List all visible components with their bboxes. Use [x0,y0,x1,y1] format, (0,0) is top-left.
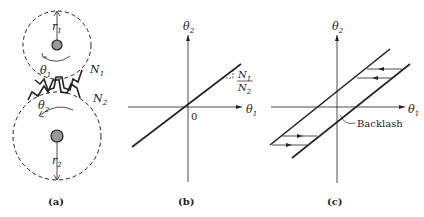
N2-label: N2 [92,92,108,107]
r1-label: r1 [52,20,62,35]
theta1-label: θ1 [40,64,51,79]
gear-backlash-diagram: r1 r2 θ1 θ2 N1 N2 (a) θ2 θ1 0 N1 N2 (b) … [0,0,424,217]
lower-backlash-line [292,64,410,158]
caption-a: (a) [48,196,64,207]
panel-c-plot [270,35,410,183]
c-xaxis-label: θ1 [408,103,419,118]
caption-c: (c) [327,196,343,207]
backlash-leader [340,115,355,124]
N1-label: N1 [89,63,104,78]
caption-b: (b) [178,196,194,207]
origin-label: 0 [191,111,197,122]
r2-label: r2 [52,154,62,169]
gear-1-shaft [52,40,62,50]
b-yaxis-label: θ2 [183,20,195,35]
backlash-label: Backlash [357,118,403,129]
c-yaxis-label: θ2 [332,20,344,35]
ratio-line [132,64,241,147]
b-xaxis-label: θ1 [246,103,257,118]
slope-denominator: N2 [237,82,252,96]
upper-backlash-line [270,49,390,145]
gear-2-shaft [51,130,63,142]
panel-b-plot [128,35,242,182]
theta2-label: θ2 [38,99,50,114]
